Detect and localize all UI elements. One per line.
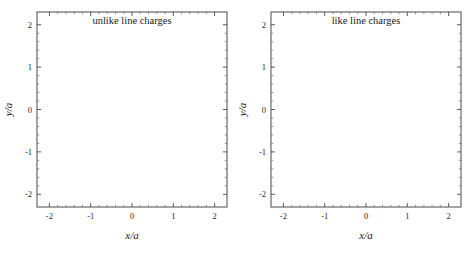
panel-title: like line charges	[332, 15, 401, 26]
y-axis-title: y/a	[2, 102, 14, 117]
y-tick-label: 2	[262, 20, 266, 30]
plot-frame	[271, 12, 461, 207]
x-tick-label: 1	[405, 211, 409, 221]
panel-like-line-charges: -2-1012-2-1012like line chargesx/ay/a	[234, 0, 468, 257]
panel-title: unlike line charges	[92, 15, 171, 26]
x-axis-title: x/a	[358, 229, 373, 241]
y-tick-label: -1	[259, 147, 266, 157]
y-tick-label: 0	[28, 105, 32, 115]
y-tick-label: 1	[28, 62, 32, 72]
axes: -2-1012-2-1012	[259, 12, 461, 221]
x-tick-label: -2	[46, 211, 53, 221]
y-tick-label: 2	[28, 20, 32, 30]
x-axis-title: x/a	[124, 229, 139, 241]
axes: -2-1012-2-1012	[25, 12, 227, 221]
x-tick-label: 0	[364, 211, 368, 221]
plot-area-like: -2-1012-2-1012like line chargesx/ay/a	[234, 0, 468, 257]
x-tick-label: 2	[212, 211, 216, 221]
figure-electric-field-line-charges: -2-1012-2-1012unlike line chargesx/ay/a …	[0, 0, 469, 257]
y-tick-label: 0	[262, 105, 266, 115]
y-tick-label: -2	[259, 189, 266, 199]
x-tick-label: -1	[321, 211, 328, 221]
plot-area-unlike: -2-1012-2-1012unlike line chargesx/ay/a	[0, 0, 234, 257]
y-tick-label: 1	[262, 62, 266, 72]
y-tick-label: -2	[25, 189, 32, 199]
y-tick-label: -1	[25, 147, 32, 157]
panel-unlike-line-charges: -2-1012-2-1012unlike line chargesx/ay/a	[0, 0, 234, 257]
x-tick-label: -2	[280, 211, 287, 221]
x-tick-label: -1	[87, 211, 94, 221]
x-tick-label: 1	[171, 211, 175, 221]
y-axis-title: y/a	[236, 102, 248, 117]
x-tick-label: 2	[446, 211, 450, 221]
plot-frame	[37, 12, 227, 207]
x-tick-label: 0	[130, 211, 134, 221]
